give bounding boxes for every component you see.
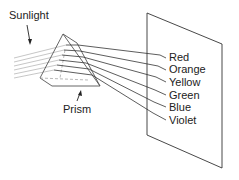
incoming-ray <box>14 70 54 78</box>
label-red: Red <box>169 51 189 63</box>
inner-ray <box>64 50 80 51</box>
prism-hidden-edge <box>60 50 65 78</box>
label-orange: Orange <box>169 63 206 75</box>
label-yellow: Yellow <box>169 76 200 88</box>
incoming-ray <box>14 60 59 70</box>
prism <box>40 34 100 86</box>
prism-arrow-icon <box>77 90 82 101</box>
sunlight-label: Sunlight <box>9 9 49 21</box>
label-green: Green <box>169 89 200 101</box>
inner-ray <box>62 55 83 57</box>
label-violet: Violet <box>169 114 196 126</box>
prism-front-face <box>40 34 100 86</box>
inner-ray <box>54 70 92 75</box>
incoming-rays <box>14 45 66 78</box>
prism-right-edge <box>63 34 77 43</box>
incoming-ray <box>14 65 57 74</box>
sunlight-arrow-icon <box>27 25 32 45</box>
label-blue: Blue <box>169 101 191 113</box>
prism-diagram: Red Orange Yellow Green Blue Violet Sunl… <box>0 0 239 180</box>
prism-label: Prism <box>63 103 91 115</box>
prism-hidden-edge <box>40 78 88 80</box>
